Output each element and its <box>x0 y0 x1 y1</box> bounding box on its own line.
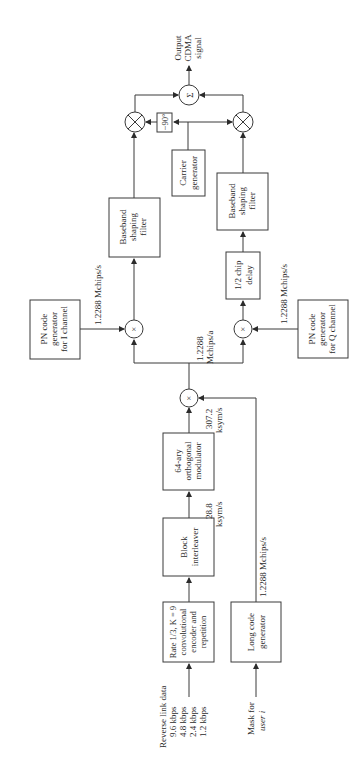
svg-text:4.8 kbps: 4.8 kbps <box>178 706 188 737</box>
svg-text:1.2288: 1.2288 <box>195 336 205 361</box>
spread-rate-label: 1.2288 Mchips/a <box>195 330 215 364</box>
svg-text:CDMA: CDMA <box>183 34 193 62</box>
svg-text:user i: user i <box>257 710 267 731</box>
multiply-icon: × <box>187 393 192 403</box>
svg-text:for I channel: for I channel <box>59 306 69 352</box>
svg-text:PN code: PN code <box>307 314 317 345</box>
i-mixer <box>125 112 145 132</box>
phase-shift-label: −90° <box>160 114 170 131</box>
q-mixer-to-sum-arrow <box>200 95 243 112</box>
svg-text:28.8: 28.8 <box>204 503 214 519</box>
svg-text:PN code: PN code <box>39 314 49 345</box>
svg-text:interleaver: interleaver <box>190 528 200 566</box>
long-code-rate-label: 1.2288 Mchips/s <box>258 536 268 597</box>
svg-text:9.6 kbps: 9.6 kbps <box>168 706 178 737</box>
svg-text:1.2 kbps: 1.2 kbps <box>198 706 208 737</box>
svg-text:Carrier: Carrier <box>178 160 188 185</box>
svg-text:Σ: Σ <box>185 92 195 97</box>
multiply-icon: × <box>132 324 137 334</box>
svg-text:1/2 chip: 1/2 chip <box>233 260 243 290</box>
pn-i-rate-label: 1.2288 Mchips/s <box>93 264 103 325</box>
rate-307-2-label: 307.2 ksym/s <box>204 407 224 433</box>
mask-label: Mask for user i <box>246 702 267 735</box>
svg-text:generator: generator <box>189 156 199 190</box>
svg-text:convolutional: convolutional <box>178 608 188 655</box>
svg-text:generator: generator <box>49 312 59 346</box>
svg-text:generator: generator <box>257 615 267 649</box>
svg-text:Rate 1/3, K = 9: Rate 1/3, K = 9 <box>168 606 178 658</box>
svg-text:encoder and: encoder and <box>188 611 198 653</box>
svg-text:Baseband: Baseband <box>227 183 237 218</box>
svg-text:ksym/s: ksym/s <box>214 501 224 527</box>
chip-delay-block <box>226 252 260 299</box>
output-label: Output CDMA signal <box>173 34 203 62</box>
svg-text:Block: Block <box>179 536 189 558</box>
sum-icon: Σ <box>185 92 195 97</box>
long-code-generator-block <box>231 602 281 662</box>
svg-text:1.2288 Mchips/s: 1.2288 Mchips/s <box>258 536 268 597</box>
carrier-label: Carrier generator <box>178 156 199 190</box>
svg-text:filter: filter <box>247 192 257 210</box>
svg-text:Baseband: Baseband <box>118 209 128 244</box>
svg-text:delay: delay <box>244 265 254 285</box>
reverse-link-data-label: Reverse link data 9.6 kbps 4.8 kbps 2.4 … <box>158 686 208 748</box>
svg-text:Output: Output <box>173 35 183 61</box>
cdma-diagram: Reverse link data 9.6 kbps 4.8 kbps 2.4 … <box>0 0 354 783</box>
svg-text:repetition: repetition <box>198 615 208 648</box>
svg-text:Long code: Long code <box>246 613 256 651</box>
long-code-label: Long code generator <box>246 613 267 651</box>
i-mixer-to-sum-arrow <box>135 95 178 112</box>
svg-text:shaping: shaping <box>237 187 247 215</box>
svg-text:2.4 kbps: 2.4 kbps <box>188 706 198 737</box>
svg-text:1.2288 Mchips/s: 1.2288 Mchips/s <box>279 263 289 324</box>
svg-text:for Q channel: for Q channel <box>327 304 337 354</box>
pn-q-rate-label: 1.2288 Mchips/s <box>279 263 289 324</box>
svg-text:307.2: 307.2 <box>204 409 214 429</box>
svg-text:1.2288 Mchips/s: 1.2288 Mchips/s <box>93 264 103 325</box>
svg-text:orthogonal: orthogonal <box>183 441 193 480</box>
svg-text:filter: filter <box>138 218 148 236</box>
svg-text:64-ary: 64-ary <box>173 449 183 473</box>
svg-text:generator: generator <box>317 312 327 346</box>
svg-text:signal: signal <box>193 37 203 59</box>
svg-text:shaping: shaping <box>128 213 138 241</box>
svg-text:ksym/s: ksym/s <box>214 407 224 433</box>
svg-text:−90°: −90° <box>160 114 170 131</box>
q-mixer <box>233 112 253 132</box>
svg-text:Reverse link data: Reverse link data <box>158 686 168 748</box>
svg-text:Mchips/a: Mchips/a <box>205 330 215 364</box>
multiply-icon: × <box>241 324 246 334</box>
svg-text:modulator: modulator <box>193 443 203 480</box>
svg-text:Mask for: Mask for <box>246 702 256 735</box>
